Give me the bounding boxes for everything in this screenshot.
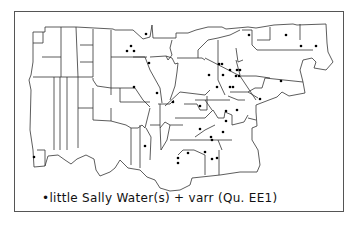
map-legend: •little Sally Water(s) + varr (Qu. EE1) <box>42 191 277 205</box>
state-boundaries <box>29 24 333 191</box>
data-dots <box>33 33 318 165</box>
